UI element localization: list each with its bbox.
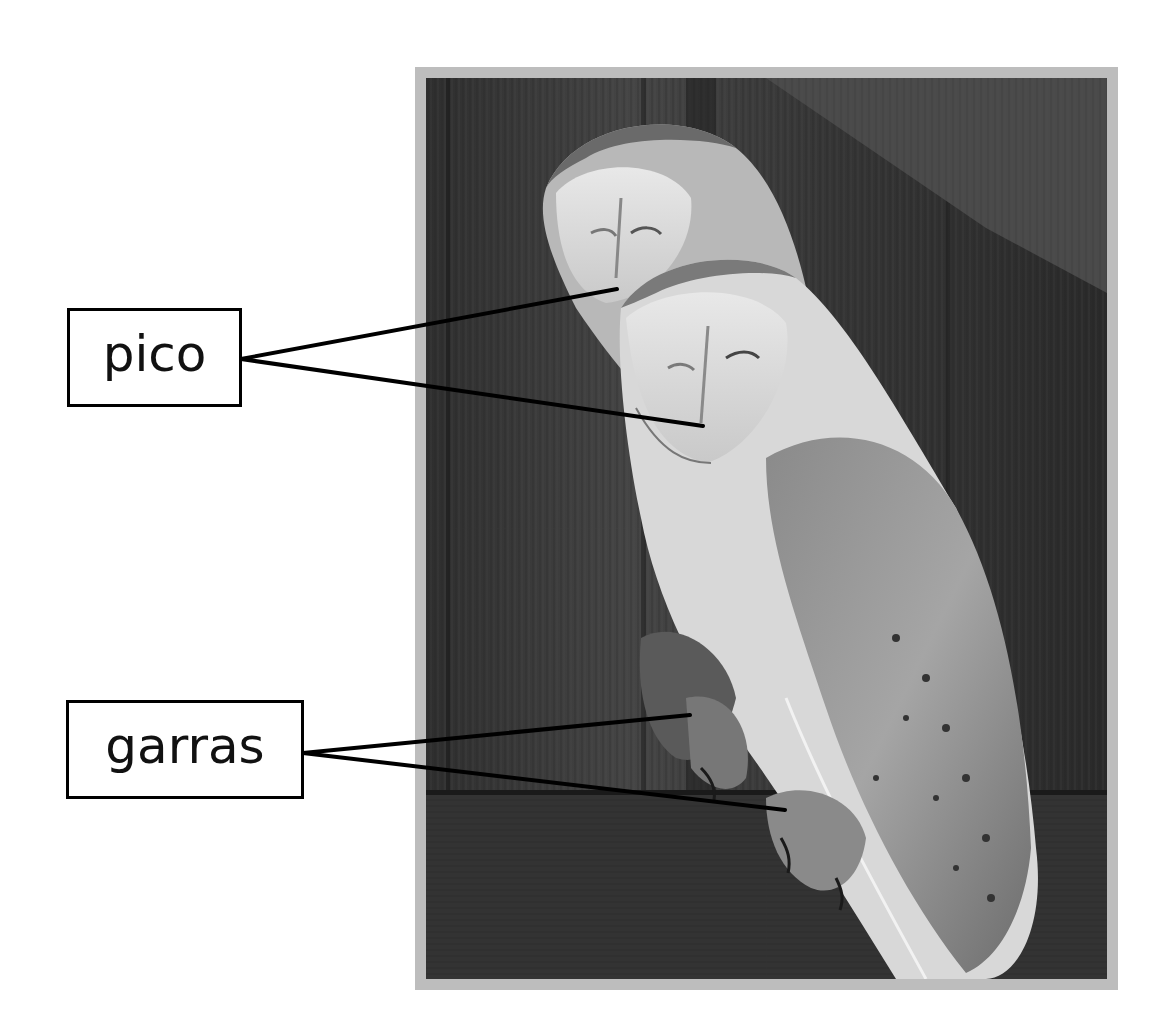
label-garras: garras — [66, 700, 304, 799]
label-garras-text: garras — [105, 721, 264, 779]
owl-illustration — [426, 78, 1107, 979]
owl-photo — [426, 78, 1107, 979]
label-pico-text: pico — [103, 329, 207, 387]
photo-frame — [415, 67, 1118, 990]
label-pico: pico — [67, 308, 242, 407]
